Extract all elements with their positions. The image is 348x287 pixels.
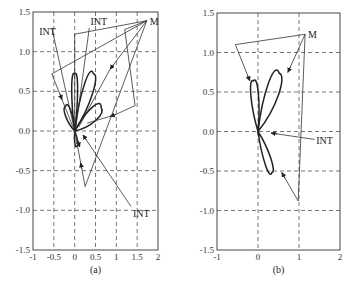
label-int: INT (91, 16, 108, 27)
label-int: INT (133, 208, 150, 219)
x-tick-label: -1 (29, 252, 37, 262)
y-tick-label: 0.0 (203, 127, 215, 137)
y-tick-label: 0.5 (203, 87, 215, 97)
y-tick-label: -1.0 (16, 205, 31, 215)
y-tick-label: 1.5 (19, 7, 31, 17)
x-tick-label: 0 (72, 252, 77, 262)
y-tick-label: -1.5 (200, 245, 215, 255)
y-tick-label: -1.5 (16, 245, 31, 255)
panel-b: -1012-1.5-1.0-0.50.00.51.01.5MINT(b) (200, 8, 343, 276)
label-m: M (308, 29, 317, 40)
y-tick-label: 0.0 (19, 126, 31, 136)
x-tick-label: 0.5 (90, 252, 102, 262)
label-int: INT (39, 26, 56, 37)
arrowhead (248, 75, 250, 81)
right-vertical (298, 34, 305, 201)
m-to-lobe (288, 34, 305, 72)
arrowhead (81, 163, 82, 169)
arrowhead (110, 64, 114, 69)
panel-caption: (a) (90, 264, 101, 276)
lower-vee (75, 21, 147, 187)
x-tick-label: -0.5 (47, 252, 62, 262)
y-tick-label: 1.0 (203, 48, 215, 58)
x-tick-label: 2 (156, 252, 161, 262)
y-tick-label: -1.0 (200, 206, 215, 216)
x-tick-label: 1 (297, 252, 302, 262)
int-left-line (52, 28, 74, 127)
arrowhead (271, 133, 277, 134)
left-trajectory (52, 21, 147, 127)
x-tick-label: -1 (213, 252, 221, 262)
y-tick-label: 1.0 (19, 47, 31, 57)
label-int: INT (316, 135, 333, 146)
arrowhead (282, 173, 285, 178)
figure-canvas: -1-0.500.511.52-1.5-1.0-0.50.00.51.01.5M… (0, 0, 348, 287)
panel-a: -1-0.500.511.52-1.5-1.0-0.50.00.51.01.5M… (16, 7, 161, 276)
panel-caption: (b) (273, 264, 285, 276)
arrowhead (60, 94, 62, 100)
y-tick-label: -0.5 (16, 166, 31, 176)
radiation-lobe (258, 70, 282, 132)
x-tick-label: 0 (256, 252, 261, 262)
x-tick-label: 2 (338, 252, 343, 262)
arrowhead (83, 135, 86, 140)
int-line (271, 133, 315, 139)
x-tick-label: 1 (114, 252, 119, 262)
plot-frame (217, 13, 340, 250)
upper-box (75, 21, 147, 123)
y-tick-label: 1.5 (203, 8, 215, 18)
right-box (87, 21, 147, 123)
y-tick-label: -0.5 (200, 166, 215, 176)
radiation-lobe (258, 132, 273, 175)
x-tick-label: 1.5 (132, 252, 144, 262)
arrowhead (288, 67, 291, 73)
y-tick-label: 0.5 (19, 86, 31, 96)
label-m: M (150, 16, 159, 27)
